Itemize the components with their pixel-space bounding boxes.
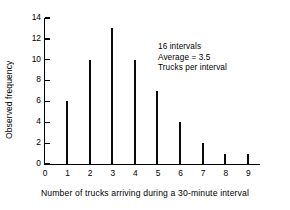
y-tick-8: 8 [45,80,50,81]
plot-area: 02468101214 0123456789 [44,18,262,166]
bar [179,122,181,164]
y-tick-label-4: 4 [36,116,41,126]
x-axis-line [44,164,260,165]
x-tick-label-0: 0 [39,168,51,178]
y-tick-6: 6 [45,101,50,102]
x-tick-label-5: 5 [152,168,164,178]
x-tick-label-3: 3 [107,168,119,178]
y-tick-label-0: 0 [36,158,41,168]
bar [66,101,68,164]
y-tick-label-14: 14 [32,12,41,22]
bar [202,143,204,164]
bar [247,154,249,164]
x-tick-label-8: 8 [220,168,232,178]
x-tick-label-2: 2 [84,168,96,178]
x-tick-label-4: 4 [129,168,141,178]
annotation-line-units: Trucks per interval [158,63,227,74]
chart-annotation: 16 intervals Average = 3.5 Trucks per in… [158,42,227,74]
histogram-figure: Observed frequency 02468101214 012345678… [0,0,290,210]
y-tick-label-2: 2 [36,137,41,147]
bar [89,60,91,164]
y-tick-label-6: 6 [36,95,41,105]
x-tick-label-1: 1 [62,168,74,178]
x-tick-label-7: 7 [197,168,209,178]
annotation-line-intervals: 16 intervals [158,42,227,53]
y-tick-4: 4 [45,122,50,123]
y-tick-2: 2 [45,143,50,144]
bar [156,91,158,164]
y-tick-label-12: 12 [32,33,41,43]
y-axis-label: Observed frequency [2,36,16,164]
y-tick-0: 0 [45,163,50,164]
x-tick-label-9: 9 [242,168,254,178]
y-tick-label-8: 8 [36,74,41,84]
x-axis-label: Number of trucks arriving during a 30-mi… [0,188,290,198]
y-tick-14: 14 [45,17,50,18]
y-tick-12: 12 [45,38,50,39]
x-tick-label-6: 6 [175,168,187,178]
bar [111,28,113,164]
bar [134,60,136,164]
bar [224,154,226,164]
y-tick-label-10: 10 [32,54,41,64]
y-tick-10: 10 [45,59,50,60]
x-tick-0: 0 [44,158,45,164]
annotation-line-average: Average = 3.5 [158,53,227,64]
